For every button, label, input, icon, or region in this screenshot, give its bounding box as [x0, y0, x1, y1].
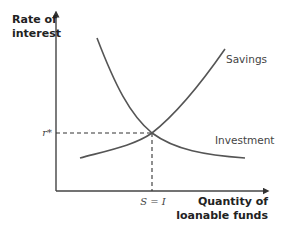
- loanable-funds-diagram: Rate of interest Quantity of loanable fu…: [0, 0, 284, 227]
- equilibrium-quantity-label: S = I: [140, 196, 167, 207]
- x-axis-label-line1: Quantity of: [198, 195, 268, 208]
- x-axis-label-line2: loanable funds: [176, 209, 268, 222]
- y-axis-label-line1: Rate of: [12, 13, 57, 26]
- y-axis-label-line2: interest: [12, 27, 61, 40]
- savings-curve-label: Savings: [226, 53, 267, 65]
- investment-curve-label: Investment: [215, 134, 274, 146]
- equilibrium-rate-label: r*: [42, 127, 52, 138]
